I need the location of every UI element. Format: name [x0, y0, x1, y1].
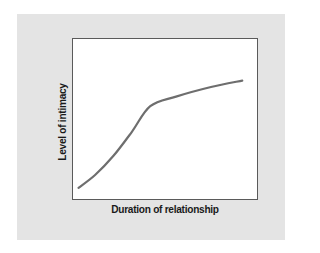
x-axis-label: Duration of relationship: [79, 203, 250, 215]
intimacy-curve-line: [79, 81, 243, 188]
plot-area: [72, 38, 258, 200]
y-axis-label: Level of intimacy: [56, 83, 68, 160]
plot-svg: [73, 39, 257, 199]
